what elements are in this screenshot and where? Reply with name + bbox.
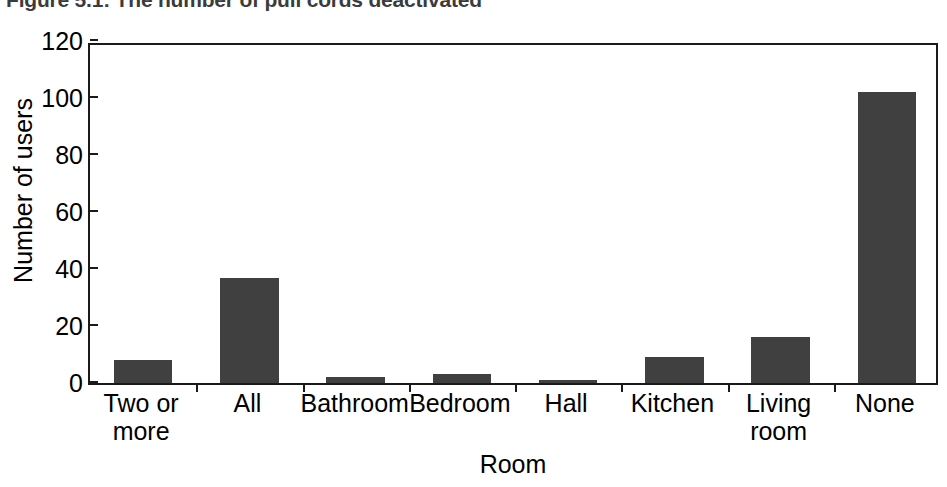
figure-root: Figure 5.1: The number of pull cords dea… (0, 0, 947, 487)
y-axis-tick: 100 (90, 96, 98, 98)
bar (539, 380, 597, 383)
y-axis-tick-label: 0 (13, 368, 83, 398)
x-axis-label-line1: Living (746, 389, 811, 417)
x-axis-label-line1: Hall (545, 389, 588, 417)
bar (433, 374, 491, 383)
y-axis-tick-label: 40 (13, 254, 83, 284)
x-axis-title: Room (88, 450, 938, 479)
x-axis-label-line1: All (233, 389, 261, 417)
x-axis-label: Hall (513, 389, 619, 417)
y-axis-tick-label: 20 (13, 311, 83, 341)
y-axis-tick: 120 (90, 39, 98, 41)
y-axis-tick-label: 80 (13, 140, 83, 170)
x-axis-label-line1: None (855, 389, 915, 417)
bar (858, 92, 916, 383)
x-axis-label: Livingroom (726, 389, 832, 445)
x-axis-label-line2: more (88, 417, 194, 445)
bar (220, 278, 278, 383)
y-axis-tick-label: 120 (13, 26, 83, 56)
y-axis-tick: 80 (90, 153, 98, 155)
y-axis-tick: 20 (90, 324, 98, 326)
y-axis-tick-label: 60 (13, 197, 83, 227)
x-axis-label-line1: Bedroom (409, 389, 510, 417)
x-axis-label-line1: Bathroom (301, 389, 409, 417)
y-axis-tick: 40 (90, 267, 98, 269)
x-axis-category-labels: Two ormoreAllBathroomBedroomHallKitchenL… (88, 389, 938, 447)
bar (751, 337, 809, 383)
x-axis-label: Two ormore (88, 389, 194, 445)
x-axis-label: Kitchen (619, 389, 725, 417)
bar (326, 377, 384, 383)
bar (645, 357, 703, 383)
x-axis-label: None (832, 389, 938, 417)
y-axis-tick-label: 100 (13, 83, 83, 113)
x-axis-label: Bedroom (407, 389, 513, 417)
x-axis-label-line1: Two or (104, 389, 179, 417)
x-axis-label-line1: Kitchen (631, 389, 714, 417)
x-axis-label-line2: room (726, 417, 832, 445)
x-axis-label: Bathroom (301, 389, 407, 417)
y-axis-tick: 0 (90, 381, 98, 383)
chart-title: Figure 5.1: The number of pull cords dea… (6, 0, 906, 13)
x-axis-label: All (194, 389, 300, 417)
plot-area: 020406080100120 (88, 43, 938, 385)
y-axis-tick: 60 (90, 210, 98, 212)
bar (114, 360, 172, 383)
